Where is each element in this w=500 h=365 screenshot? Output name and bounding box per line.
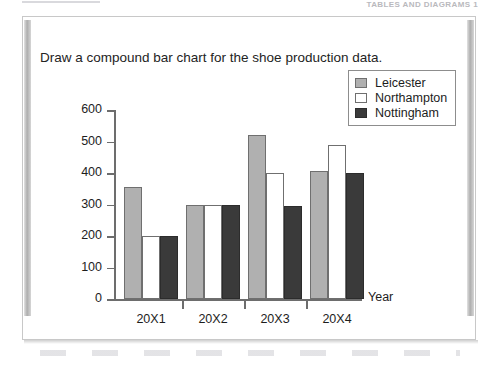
x-category-20x3: 20X3 (248, 312, 302, 326)
x-axis-line (114, 299, 362, 301)
y-tick-100 (107, 268, 115, 270)
bar-northampton-20x1 (142, 236, 160, 299)
x-group-separator-1 (182, 300, 184, 309)
page-gutter-right (467, 20, 474, 316)
y-tick-label-100: 100 (56, 260, 102, 274)
legend-label-northampton: Northampton (375, 91, 447, 105)
y-tick-600 (107, 110, 115, 112)
bar-nottingham-20x2 (222, 205, 240, 300)
y-tick-300 (107, 205, 115, 207)
y-tick-0 (107, 299, 115, 301)
bar-leicester-20x1 (124, 187, 142, 299)
bar-leicester-20x2 (186, 205, 204, 300)
x-group-separator-3 (306, 300, 308, 309)
scan-smudge (40, 350, 460, 356)
y-tick-label-400: 400 (56, 165, 102, 179)
legend-item-northampton: Northampton (355, 90, 447, 105)
bar-nottingham-20x3 (284, 206, 302, 299)
y-tick-400 (107, 173, 115, 175)
y-tick-label-0: 0 (56, 291, 102, 305)
legend-swatch-northampton (355, 93, 367, 103)
bar-leicester-20x4 (310, 171, 328, 299)
bar-nottingham-20x4 (346, 173, 364, 299)
bar-northampton-20x4 (328, 145, 346, 299)
page-gutter-left (24, 20, 31, 316)
bar-northampton-20x3 (266, 173, 284, 299)
x-group-separator-2 (244, 300, 246, 309)
x-category-20x2: 20X2 (186, 312, 240, 326)
y-tick-label-200: 200 (56, 228, 102, 242)
y-tick-label-500: 500 (56, 134, 102, 148)
legend-label-leicester: Leicester (375, 76, 426, 90)
y-tick-200 (107, 236, 115, 238)
page-shadow (24, 340, 478, 344)
y-tick-label-300: 300 (56, 197, 102, 211)
legend-swatch-leicester (355, 78, 367, 88)
bar-northampton-20x2 (204, 205, 222, 300)
x-category-20x4: 20X4 (310, 312, 364, 326)
running-header: TABLES AND DIAGRAMS 1 (366, 0, 478, 7)
bar-leicester-20x3 (248, 135, 266, 299)
x-category-20x1: 20X1 (124, 312, 178, 326)
header-rule (22, 1, 100, 3)
exercise-prompt: Draw a compound bar chart for the shoe p… (40, 50, 382, 65)
y-tick-500 (107, 142, 115, 144)
y-tick-label-600: 600 (56, 102, 102, 116)
compound-bar-chart: 6005004003002001000 20X120X220X320X4 Yea… (36, 104, 376, 334)
bar-nottingham-20x1 (160, 236, 178, 299)
legend-item-leicester: Leicester (355, 75, 447, 90)
legend-label-nottingham: Nottingham (375, 106, 439, 120)
x-axis-title: Year (368, 290, 393, 304)
